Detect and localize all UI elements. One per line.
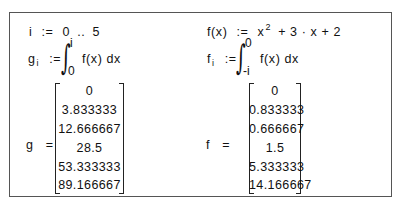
range-dots: .. xyxy=(77,25,85,39)
g-result-variable: g xyxy=(26,138,34,152)
g-variable: g xyxy=(28,52,36,66)
matrix-cell: 12.666667 xyxy=(55,122,124,136)
matrix-cell: 0 xyxy=(55,84,124,98)
range-end: 5 xyxy=(92,25,100,39)
matrix-cell: 5.333333 xyxy=(249,160,301,174)
f-result-matrix[interactable]: 0 0.833333 0.666667 1.5 5.333333 14.1666… xyxy=(249,83,301,194)
g-integrand: f(x) dx xyxy=(82,52,121,66)
f-subscript: i xyxy=(212,58,215,68)
function-definition[interactable]: f(x) := x2 + 3 · x + 2 xyxy=(207,25,341,39)
lower-limit: 0 xyxy=(68,64,75,78)
equals-operator: = xyxy=(46,138,54,152)
assign-operator: := xyxy=(49,52,61,66)
f-result-label: f = xyxy=(206,138,230,152)
matrix-cell: 3.833333 xyxy=(55,103,124,117)
f-integral-lhs[interactable]: fi := xyxy=(207,52,237,66)
function-name: f(x) xyxy=(207,25,227,39)
upper-limit: i xyxy=(70,36,73,50)
function-remaining-terms: + 3 · x + 2 xyxy=(278,25,341,39)
matrix-cell: 1.5 xyxy=(249,141,301,155)
matrix-cell: 89.166667 xyxy=(55,178,124,192)
g-result-label: g = xyxy=(26,138,54,152)
matrix-cell: 14.166667 xyxy=(249,178,301,192)
f-integral[interactable]: ∫ 0 -i xyxy=(236,40,250,80)
g-subscript: i xyxy=(37,58,40,68)
g-result-matrix[interactable]: 0 3.833333 12.666667 28.5 53.333333 89.1… xyxy=(55,83,124,194)
equals-operator: = xyxy=(222,138,230,152)
matrix-cell: 0 xyxy=(249,84,301,98)
g-integral-lhs[interactable]: gi := xyxy=(28,52,61,66)
f-integrand: f(x) dx xyxy=(260,52,299,66)
matrix-cell: 0.666667 xyxy=(249,122,301,136)
range-variable: i xyxy=(29,25,32,39)
assign-operator: := xyxy=(41,25,53,39)
f-result-variable: f xyxy=(206,138,210,152)
g-integral[interactable]: ∫ i 0 xyxy=(61,40,75,80)
f-variable: f xyxy=(207,52,211,66)
matrix-cell: 53.333333 xyxy=(55,160,124,174)
exponent: 2 xyxy=(265,22,271,32)
matrix-cell: 28.5 xyxy=(55,141,124,155)
assign-operator: := xyxy=(225,52,237,66)
lower-limit: -i xyxy=(243,64,250,78)
matrix-cell: 0.833333 xyxy=(249,103,301,117)
upper-limit: 0 xyxy=(245,36,252,50)
function-x-term: x xyxy=(258,25,265,39)
